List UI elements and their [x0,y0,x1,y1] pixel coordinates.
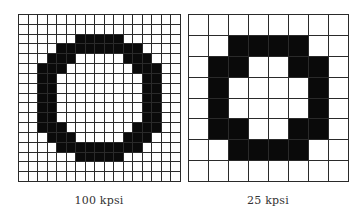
pixel-empty [114,162,123,171]
pixel-empty [143,143,152,152]
pixel-empty [114,74,123,83]
pixel-empty [105,172,114,181]
pixel-empty [152,172,161,181]
pixel-empty [162,123,171,132]
pixel-empty [329,78,348,98]
pixel-filled [48,64,57,73]
pixel-filled [269,36,288,56]
pixel-empty [86,113,95,122]
pixel-empty [152,153,161,162]
pixel-filled [133,44,142,53]
pixel-filled [124,54,133,63]
caption-100-kpsi: 100 kpsi [39,194,159,207]
pixel-empty [124,64,133,73]
pixel-empty [76,25,85,34]
pixel-filled [48,94,57,103]
pixel-filled [38,64,47,73]
pixel-empty [29,64,38,73]
pixel-empty [162,15,171,24]
pixel-empty [329,36,348,56]
pixel-empty [19,54,28,63]
pixel-filled [124,44,133,53]
pixel-empty [95,74,104,83]
pixel-empty [162,153,171,162]
pixel-empty [171,103,180,112]
pixel-filled [67,44,76,53]
pixel-empty [95,15,104,24]
pixel-empty [95,133,104,142]
pixel-empty [57,172,66,181]
pixel-empty [162,133,171,142]
pixel-empty [133,35,142,44]
pixel-empty [329,99,348,119]
pixel-filled [38,123,47,132]
pixel-empty [86,25,95,34]
pixel-empty [67,74,76,83]
pixel-empty [171,25,180,34]
pixel-filled [143,103,152,112]
pixel-filled [229,57,248,77]
pixel-filled [86,44,95,53]
pixel-empty [76,84,85,93]
pixel-filled [309,78,328,98]
pixel-empty [48,172,57,181]
pixel-empty [86,64,95,73]
pixel-empty [48,15,57,24]
pixel-empty [67,35,76,44]
pixel-empty [19,15,28,24]
pixel-empty [189,36,208,56]
pixel-empty [143,25,152,34]
pixel-empty [269,161,288,181]
pixel-filled [133,143,142,152]
pixel-filled [143,74,152,83]
pixel-empty [114,54,123,63]
pixel-empty [105,54,114,63]
pixel-filled [105,143,114,152]
pixel-empty [269,78,288,98]
pixel-empty [38,143,47,152]
pixel-empty [114,113,123,122]
pixel-empty [48,143,57,152]
pixel-empty [171,64,180,73]
pixel-empty [289,78,308,98]
pixel-empty [86,133,95,142]
pixel-empty [209,15,228,35]
pixel-empty [162,44,171,53]
pixel-empty [114,64,123,73]
pixel-empty [67,172,76,181]
pixel-empty [152,25,161,34]
pixel-empty [95,25,104,34]
pixel-empty [86,84,95,93]
pixel-empty [19,44,28,53]
pixel-empty [124,162,133,171]
pixel-empty [86,94,95,103]
pixel-empty [152,54,161,63]
pixel-empty [309,140,328,160]
pixel-empty [95,54,104,63]
pixel-empty [29,94,38,103]
pixel-empty [171,123,180,132]
pixel-empty [249,57,268,77]
pixel-empty [171,84,180,93]
pixel-grid-25-kpsi [188,14,349,182]
pixel-empty [57,153,66,162]
pixel-empty [19,123,28,132]
pixel-filled [48,133,57,142]
pixel-empty [249,119,268,139]
pixel-empty [76,113,85,122]
pixel-filled [57,64,66,73]
pixel-empty [86,123,95,132]
pixel-filled [48,103,57,112]
pixel-empty [124,25,133,34]
pixel-empty [57,74,66,83]
pixel-empty [114,94,123,103]
pixel-empty [29,44,38,53]
pixel-empty [162,103,171,112]
pixel-empty [95,123,104,132]
pixel-empty [38,162,47,171]
pixel-empty [38,133,47,142]
pixel-filled [48,74,57,83]
pixel-filled [229,119,248,139]
pixel-empty [329,161,348,181]
pixel-empty [124,35,133,44]
